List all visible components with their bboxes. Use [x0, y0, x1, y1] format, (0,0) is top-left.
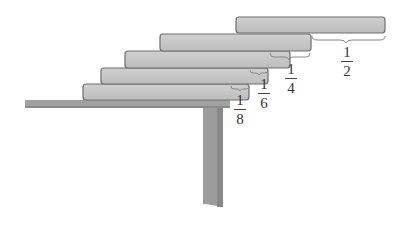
block-4: [160, 34, 311, 51]
fraction-denominator: 4: [283, 81, 299, 96]
overhang-diagram: [0, 0, 411, 233]
fraction-1-2: 1 2: [339, 45, 355, 79]
fraction-numerator: 1: [232, 93, 248, 108]
table-leg-shade: [217, 108, 223, 207]
fraction-bar: [258, 93, 270, 94]
block-3: [125, 51, 290, 68]
fraction-numerator: 1: [339, 45, 355, 60]
fraction-denominator: 2: [339, 64, 355, 79]
fraction-numerator: 1: [283, 62, 299, 77]
block-2: [101, 68, 268, 84]
fraction-bar: [341, 61, 353, 62]
fraction-1-4: 1 4: [283, 62, 299, 96]
block-5: [236, 17, 385, 33]
table-top-edge: [25, 106, 230, 108]
fraction-bar: [285, 78, 297, 79]
brace-1-2: [312, 36, 385, 43]
fraction-1-6: 1 6: [256, 77, 272, 111]
fraction-denominator: 8: [232, 112, 248, 127]
fraction-1-8: 1 8: [232, 93, 248, 127]
fraction-denominator: 6: [256, 96, 272, 111]
block-1: [83, 84, 249, 100]
fraction-numerator: 1: [256, 77, 272, 92]
fraction-bar: [234, 109, 246, 110]
